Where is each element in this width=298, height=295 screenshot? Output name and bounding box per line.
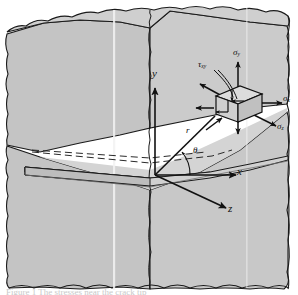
sigma-x-label: σx	[283, 94, 290, 104]
x-axis-label: x	[237, 166, 242, 177]
tau-xy-subscript: xy	[201, 63, 206, 69]
sigma-z-subscript: z	[281, 125, 283, 131]
radius-label-r: r	[186, 126, 190, 135]
figure-canvas: y x z r θ σy σx σz τxy Figure 1 The stre…	[0, 0, 298, 295]
block-upper-left-face	[6, 20, 150, 152]
highlight-stripe	[113, 10, 115, 290]
z-axis-label: z	[228, 203, 232, 214]
sigma-y-subscript: y	[237, 51, 239, 57]
solid-block	[6, 7, 290, 291]
highlight-stripe-right	[246, 8, 248, 288]
sigma-z-arrow-lower-left	[206, 118, 222, 130]
block-lower-right-face	[150, 112, 289, 289]
sigma-x-subscript: x	[287, 97, 289, 103]
figure-caption: Figure 1 The stresses near the crack tip	[6, 287, 147, 295]
sigma-z-label: σz	[277, 122, 284, 132]
y-axis-label: y	[152, 68, 157, 79]
crack-tip-stress-diagram	[0, 0, 298, 295]
tau-xy-label: τxy	[198, 60, 206, 70]
sigma-y-label: σy	[233, 48, 240, 58]
theta-label: θ	[193, 146, 197, 155]
